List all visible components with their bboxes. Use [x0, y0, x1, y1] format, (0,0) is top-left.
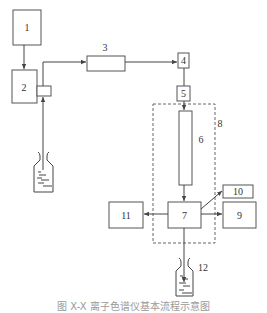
component-10-box: 10: [223, 185, 253, 198]
component-12-waste-bottle: 12: [176, 258, 208, 296]
component-6-label: 6: [199, 134, 204, 145]
component-2-port: [37, 86, 51, 96]
component-7-label: 7: [182, 210, 187, 221]
component-2-box: 2: [12, 70, 51, 103]
component-5-box: 5: [177, 86, 190, 101]
component-7-box: 7: [168, 202, 201, 228]
component-5-label: 5: [181, 88, 186, 99]
connector-2-to-3: [43, 62, 86, 86]
component-3-label: 3: [103, 42, 108, 53]
component-2-label: 2: [22, 82, 27, 93]
component-10-label: 10: [233, 186, 243, 197]
component-11-label: 11: [121, 210, 131, 221]
component-1-label: 1: [25, 22, 30, 33]
component-4-label: 4: [181, 55, 186, 66]
component-11-box: 11: [109, 202, 143, 228]
component-9-box: 9: [223, 202, 256, 228]
component-1-box: 1: [13, 10, 41, 45]
component-4-box: 4: [178, 53, 189, 68]
component-6-column: 6: [179, 111, 204, 185]
connector-7-to-10: [201, 191, 222, 209]
component-9-label: 9: [237, 210, 242, 221]
component-12-label: 12: [198, 262, 208, 273]
component-8-label: 8: [218, 118, 223, 129]
figure-caption: 图 X-X 离子色谱仪基本流程示意图: [0, 298, 267, 313]
component-3-box: 3: [87, 42, 125, 71]
